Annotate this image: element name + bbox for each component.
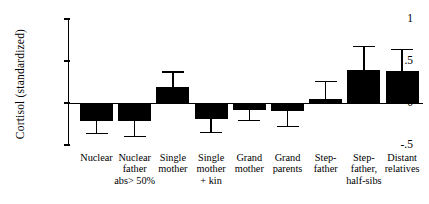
bar: [233, 103, 266, 110]
bar: [271, 103, 304, 111]
x-axis-label-line: half-sibs: [341, 175, 387, 186]
x-axis-label-line: abs> 50%: [112, 175, 158, 186]
error-bar-stem: [134, 121, 135, 137]
bar: [118, 103, 151, 121]
error-bar-stem: [96, 121, 97, 133]
error-bar-stem: [363, 47, 364, 71]
error-bar-stem: [401, 49, 402, 71]
error-bar-cap: [391, 49, 413, 50]
y-tick-label: .5: [379, 55, 413, 67]
bar: [347, 70, 380, 103]
error-bar-cap: [162, 71, 184, 72]
x-axis-label: Distantrelatives: [379, 152, 425, 175]
x-axis-label-line: + kin: [188, 175, 234, 186]
plot-area: 1.50-.5: [68, 12, 423, 150]
y-axis-line: [68, 19, 69, 145]
error-bar-cap: [353, 46, 375, 47]
y-tick-label: 1: [379, 13, 413, 25]
error-bar-stem: [210, 119, 211, 132]
bar: [309, 99, 342, 103]
x-axis-labels: NuclearNuclearfatherabs> 50%Singlemother…: [68, 152, 426, 202]
error-bar-stem: [172, 72, 173, 87]
bar: [195, 103, 228, 119]
y-tick-.5: [64, 60, 70, 61]
error-bar-cap: [86, 133, 108, 134]
bar: [80, 103, 113, 121]
y-tick-1: [64, 18, 70, 19]
error-bar-cap: [238, 120, 260, 121]
error-bar-stem: [249, 110, 250, 121]
error-bar-cap: [124, 136, 146, 137]
y-tick--.5: [64, 144, 70, 145]
y-axis-title: Cortisol (standardized): [14, 9, 34, 159]
error-bar-cap: [200, 132, 222, 133]
error-bar-stem: [287, 111, 288, 126]
y-tick-label: -.5: [379, 139, 413, 151]
bar: [386, 71, 419, 103]
bar: [156, 87, 189, 103]
x-axis-label-line: Distant: [379, 152, 425, 163]
error-bar-stem: [325, 81, 326, 99]
x-axis-label-line: relatives: [379, 163, 425, 174]
error-bar-cap: [277, 126, 299, 127]
cortisol-bar-chart: Cortisol (standardized) 1.50-.5 NuclearN…: [0, 0, 429, 204]
error-bar-cap: [315, 81, 337, 82]
